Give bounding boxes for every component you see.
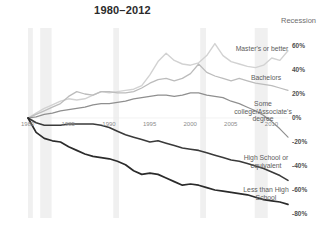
page-title: 1980–2012 [0,4,245,16]
x-axis-tick-label: 1990 [102,121,115,127]
footer-strip [0,219,321,229]
y-axis-tick-label: 40% [292,66,305,73]
series-line-high-school-or-equivalent [28,118,288,180]
series-label: High School or equivalent [228,154,304,169]
series-label: Bachelors [228,74,304,82]
x-axis-tick-label: 1985 [62,121,75,127]
x-axis-tick-label: 1995 [143,121,156,127]
y-axis-tick-label: 20% [292,90,305,97]
series-label: Master's or better [224,45,300,53]
x-axis-tick-label: 2000 [184,121,197,127]
series-label: Some college/Associate's degree [225,100,301,123]
x-axis-tick-label: 1980 [21,121,34,127]
recession-band [40,28,51,218]
recession-legend-label: Recession [281,16,316,25]
y-axis-tick-label: -20% [292,138,307,145]
chart-page: 1980–2012 Recession 60%40%20%0%-20%-40%-… [0,0,321,229]
y-axis-tick-label: -80% [292,210,307,217]
series-label: Less than High School [228,186,304,201]
